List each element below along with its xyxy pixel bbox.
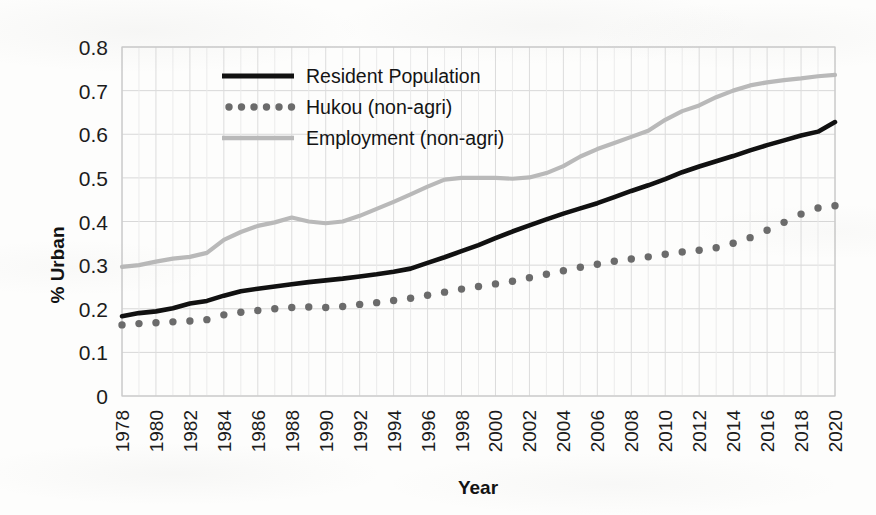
series-marker-hukou-non-agri xyxy=(288,304,295,311)
series-marker-hukou-non-agri xyxy=(475,283,482,290)
x-tick-label: 1984 xyxy=(214,410,235,453)
series-marker-hukou-non-agri xyxy=(186,317,193,324)
series-marker-hukou-non-agri xyxy=(118,321,125,328)
series-marker-hukou-non-agri xyxy=(628,255,635,262)
x-tick-label: 1978 xyxy=(112,410,133,452)
x-axis-tick-labels: 1978198019821984198619881990199219941996… xyxy=(112,410,846,453)
series-marker-hukou-non-agri xyxy=(577,264,584,271)
y-tick-label: 0.2 xyxy=(79,298,108,321)
x-tick-label: 2000 xyxy=(485,410,506,452)
x-tick-label: 1998 xyxy=(452,410,473,452)
series-marker-hukou-non-agri xyxy=(797,210,804,217)
x-tick-label: 2012 xyxy=(689,410,710,452)
series-marker-hukou-non-agri xyxy=(458,285,465,292)
grid-lines xyxy=(122,47,835,396)
legend-label: Resident Population xyxy=(306,65,481,87)
x-tick-label: 2018 xyxy=(791,410,812,452)
x-tick-label: 2004 xyxy=(553,410,574,453)
series-marker-hukou-non-agri xyxy=(220,311,227,318)
series-marker-hukou-non-agri xyxy=(135,320,142,327)
series-marker-hukou-non-agri xyxy=(611,257,618,264)
series-marker-hukou-non-agri xyxy=(763,227,770,234)
x-tick-label: 1990 xyxy=(316,410,337,452)
y-tick-label: 0.7 xyxy=(79,80,108,103)
chart-canvas: 00.10.20.30.40.50.60.70.8 19781980198219… xyxy=(0,0,876,515)
series-marker-hukou-non-agri xyxy=(152,319,159,326)
x-tick-label: 1988 xyxy=(282,410,303,452)
legend-swatch-dotted xyxy=(275,103,282,110)
series-marker-hukou-non-agri xyxy=(339,303,346,310)
x-tick-label: 1992 xyxy=(350,410,371,452)
series-marker-hukou-non-agri xyxy=(441,288,448,295)
y-tick-label: 0.4 xyxy=(79,211,109,234)
series-marker-hukou-non-agri xyxy=(526,274,533,281)
legend-label: Hukou (non-agri) xyxy=(306,96,452,118)
y-tick-label: 0.8 xyxy=(79,36,108,59)
series-marker-hukou-non-agri xyxy=(305,303,312,310)
y-tick-label: 0 xyxy=(96,385,108,408)
series-marker-hukou-non-agri xyxy=(271,305,278,312)
series-marker-hukou-non-agri xyxy=(254,307,261,314)
series-marker-hukou-non-agri xyxy=(356,301,363,308)
series-marker-hukou-non-agri xyxy=(390,297,397,304)
x-tick-label: 2008 xyxy=(621,410,642,452)
series-marker-hukou-non-agri xyxy=(492,280,499,287)
series-marker-hukou-non-agri xyxy=(645,253,652,260)
x-tick-label: 2006 xyxy=(587,410,608,452)
series-marker-hukou-non-agri xyxy=(746,234,753,241)
x-tick-label: 2016 xyxy=(757,410,778,452)
series-marker-hukou-non-agri xyxy=(695,247,702,254)
y-axis-title: % Urban xyxy=(47,226,68,303)
x-tick-label: 2002 xyxy=(519,410,540,452)
series-marker-hukou-non-agri xyxy=(662,251,669,258)
series-marker-hukou-non-agri xyxy=(712,244,719,251)
y-axis-tick-labels: 00.10.20.30.40.50.60.70.8 xyxy=(79,36,109,408)
x-tick-label: 2020 xyxy=(825,410,846,452)
series-marker-hukou-non-agri xyxy=(237,309,244,316)
legend-swatch-dotted xyxy=(288,103,295,110)
series-marker-hukou-non-agri xyxy=(203,316,210,323)
x-tick-label: 1996 xyxy=(418,410,439,452)
y-tick-label: 0.3 xyxy=(79,254,108,277)
series-marker-hukou-non-agri xyxy=(322,304,329,311)
y-tick-label: 0.6 xyxy=(79,123,108,146)
legend-swatch-dotted xyxy=(225,103,232,110)
series-marker-hukou-non-agri xyxy=(560,267,567,274)
line-chart: 00.10.20.30.40.50.60.70.8 19781980198219… xyxy=(0,0,876,515)
x-axis-title: Year xyxy=(458,477,499,498)
x-tick-label: 2014 xyxy=(723,410,744,453)
series-marker-hukou-non-agri xyxy=(594,261,601,268)
x-tick-label: 1982 xyxy=(180,410,201,452)
x-tick-label: 1986 xyxy=(248,410,269,452)
series-marker-hukou-non-agri xyxy=(424,292,431,299)
series-marker-hukou-non-agri xyxy=(373,299,380,306)
series-marker-hukou-non-agri xyxy=(509,278,516,285)
series-marker-hukou-non-agri xyxy=(679,248,686,255)
y-tick-label: 0.1 xyxy=(79,341,108,364)
legend-swatch-dotted xyxy=(263,103,270,110)
legend-label: Employment (non-agri) xyxy=(306,127,504,149)
series-marker-hukou-non-agri xyxy=(780,219,787,226)
x-tick-label: 2010 xyxy=(655,410,676,452)
legend-swatch-dotted xyxy=(250,103,257,110)
y-tick-label: 0.5 xyxy=(79,167,108,190)
series-marker-hukou-non-agri xyxy=(729,240,736,247)
x-tick-label: 1994 xyxy=(384,410,405,453)
x-tick-label: 1980 xyxy=(146,410,167,452)
series-marker-hukou-non-agri xyxy=(169,318,176,325)
series-marker-hukou-non-agri xyxy=(407,295,414,302)
series-marker-hukou-non-agri xyxy=(831,202,838,209)
series-marker-hukou-non-agri xyxy=(814,204,821,211)
series-marker-hukou-non-agri xyxy=(543,271,550,278)
legend-swatch-dotted xyxy=(238,103,245,110)
